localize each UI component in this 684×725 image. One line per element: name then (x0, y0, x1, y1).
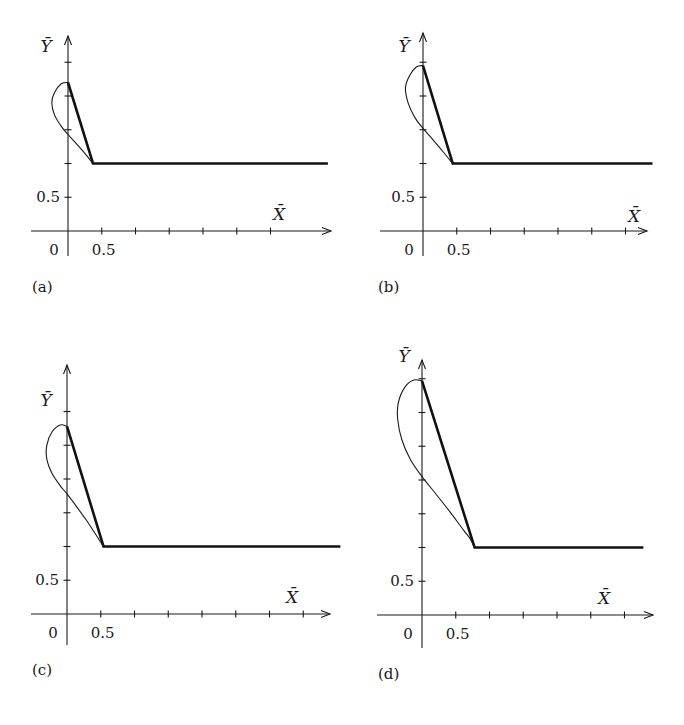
thick-polyline-series (67, 426, 340, 546)
x-tick-label: 0.5 (92, 241, 116, 259)
origin-label: 0 (403, 625, 413, 643)
loop-curve-series (397, 380, 474, 548)
y-tick-label: 0.5 (35, 571, 59, 589)
x-axis-label: X̄ (626, 205, 641, 226)
y-axis-label: Ȳ (398, 36, 411, 56)
x-axis-label: X̄ (596, 587, 611, 608)
origin-label: 0 (48, 624, 58, 642)
panel-label: (c) (32, 661, 52, 679)
x-axis-label: X̄ (271, 203, 286, 224)
y-tick-label: 0.5 (390, 572, 414, 590)
x-tick-label: 0.5 (447, 241, 471, 259)
thick-polyline-series (422, 381, 643, 548)
panel-b: 0.50.50ȲX̄(b) (378, 33, 653, 296)
panel-c: 0.50.50ȲX̄(c) (31, 365, 340, 679)
x-tick-label: 0.5 (446, 625, 470, 643)
panel-label: (a) (32, 278, 53, 296)
y-axis-label: Ȳ (398, 346, 411, 366)
thick-polyline-series (68, 83, 328, 164)
x-axis-label: X̄ (284, 586, 299, 607)
x-tick-label: 0.5 (91, 624, 115, 642)
y-tick-label: 0.5 (36, 188, 60, 206)
panel-label: (d) (378, 665, 399, 683)
loop-curve-series (405, 66, 452, 164)
y-axis-label: Ȳ (40, 390, 53, 410)
panel-a: 0.50.50ȲX̄(a) (31, 36, 331, 296)
panel-label: (b) (378, 278, 399, 296)
origin-label: 0 (49, 241, 59, 259)
loop-curve-series (46, 425, 103, 547)
figure-canvas: 0.50.50ȲX̄(a)0.50.50ȲX̄(b)0.50.50ȲX̄(c)0… (0, 0, 684, 725)
panel-d: 0.50.50ȲX̄(d) (377, 346, 653, 683)
origin-label: 0 (404, 241, 414, 259)
y-tick-label: 0.5 (391, 188, 415, 206)
y-axis-label: Ȳ (40, 36, 53, 56)
thick-polyline-series (423, 66, 653, 164)
